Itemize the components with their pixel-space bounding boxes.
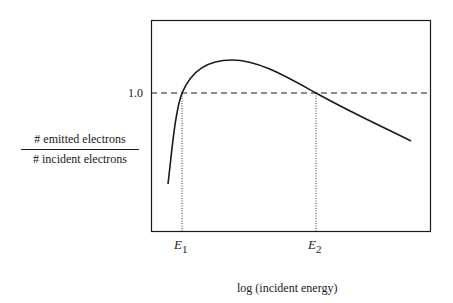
e1-base: E bbox=[174, 237, 182, 252]
plot-frame bbox=[152, 21, 431, 232]
y-axis-label-numerator: # emitted electrons bbox=[21, 132, 139, 150]
x-tick-label-e1: E1 bbox=[174, 238, 187, 251]
e1-subscript: 1 bbox=[182, 243, 188, 255]
y-axis-label-denominator: # incident electrons bbox=[21, 150, 139, 167]
e2-base: E bbox=[308, 237, 316, 252]
yield-curve bbox=[168, 60, 411, 184]
y-tick-label-1-0: 1.0 bbox=[128, 87, 143, 99]
x-tick-label-e2: E2 bbox=[308, 238, 321, 251]
y-axis-label: # emitted electrons # incident electrons bbox=[21, 132, 139, 167]
e2-subscript: 2 bbox=[316, 243, 322, 255]
x-axis-label: log (incident energy) bbox=[237, 282, 337, 294]
